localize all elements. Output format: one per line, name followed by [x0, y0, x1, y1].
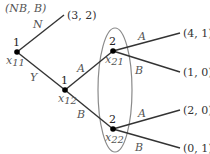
- payoff-BA: (2, 0): [183, 104, 210, 117]
- edge-label-x21-B: B: [134, 64, 143, 77]
- player-label-x11: 1: [13, 36, 20, 49]
- edge-x22-A: [113, 110, 180, 129]
- payoff-N: (3, 2): [67, 9, 97, 22]
- edge-label-x22-B: B: [134, 141, 143, 154]
- edge-label-x22-A: A: [137, 107, 146, 120]
- strategy-profile-label: (NB, B): [5, 2, 46, 15]
- edge-label-Y: Y: [30, 71, 39, 84]
- node-name-x21: x21: [105, 53, 124, 67]
- player-label-x12: 1: [61, 74, 68, 87]
- player-label-x21: 2: [109, 35, 116, 48]
- node-x11: [14, 49, 20, 55]
- node-name-x22: x22: [105, 131, 124, 145]
- edge-label-x12-A: A: [76, 62, 85, 75]
- player-label-x22: 2: [109, 113, 116, 126]
- game-tree: (NB, B) 1 1 2 2 x11 x12 x21 x22 N Y A B …: [0, 0, 210, 154]
- payoff-BB: (0, 1): [183, 142, 210, 154]
- node-name-x11: x11: [6, 54, 25, 68]
- node-name-x12: x12: [58, 92, 77, 106]
- edge-label-x21-A: A: [137, 30, 146, 43]
- edge-label-x12-B: B: [76, 108, 85, 121]
- payoff-AA: (4, 1): [183, 27, 210, 40]
- payoff-AB: (1, 0): [183, 66, 210, 79]
- edge-label-N: N: [32, 18, 43, 31]
